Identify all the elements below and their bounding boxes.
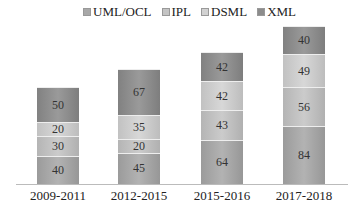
bar-2017-2018: 84564940 [283, 26, 325, 184]
bar-segment-uml-ocl: 40 [37, 156, 79, 184]
bar-segment-uml-ocl: 64 [201, 140, 243, 184]
legend-item-uml-ocl: UML/OCL [83, 4, 152, 20]
x-tick-label: 2012-2015 [99, 188, 179, 204]
bar-segment-dsml: 20 [37, 122, 79, 136]
legend-swatch-icon [201, 8, 209, 16]
bar-segment-dsml: 49 [283, 54, 325, 88]
legend-label: DSML [211, 4, 247, 20]
bar-segment-xml: 67 [118, 69, 160, 115]
legend-label: UML/OCL [93, 4, 152, 20]
x-axis-line [16, 184, 348, 185]
bar-segment-ipl: 20 [118, 139, 160, 153]
legend-swatch-icon [162, 8, 170, 16]
bar-segment-ipl: 30 [37, 136, 79, 157]
bar-2015-2016: 64434242 [201, 52, 243, 184]
x-tick-label: 2015-2016 [182, 188, 262, 204]
bar-segment-ipl: 43 [201, 110, 243, 140]
legend: UML/OCLIPLDSMLXML [83, 4, 296, 20]
bar-segment-dsml: 42 [201, 81, 243, 110]
legend-item-ipl: IPL [162, 4, 192, 20]
legend-label: XML [267, 4, 296, 20]
bar-segment-xml: 50 [37, 87, 79, 122]
bar-segment-xml: 42 [201, 52, 243, 81]
bar-segment-xml: 40 [283, 26, 325, 54]
bar-segment-dsml: 35 [118, 115, 160, 139]
stacked-bar-chart: UML/OCLIPLDSMLXML 403020502009-201145203… [0, 0, 362, 209]
legend-item-dsml: DSML [201, 4, 247, 20]
x-tick-label: 2009-2011 [18, 188, 98, 204]
bar-segment-uml-ocl: 45 [118, 153, 160, 184]
bar-segment-uml-ocl: 84 [283, 126, 325, 184]
bar-2012-2015: 45203567 [118, 69, 160, 184]
legend-item-xml: XML [257, 4, 296, 20]
bar-segment-ipl: 56 [283, 87, 325, 126]
legend-swatch-icon [83, 8, 91, 16]
bar-2009-2011: 40302050 [37, 87, 79, 184]
x-tick-label: 2017-2018 [264, 188, 344, 204]
legend-label: IPL [172, 4, 192, 20]
legend-swatch-icon [257, 8, 265, 16]
